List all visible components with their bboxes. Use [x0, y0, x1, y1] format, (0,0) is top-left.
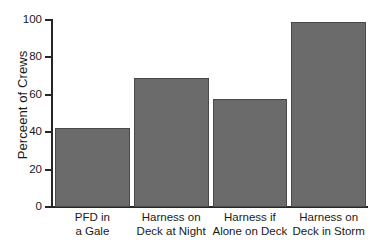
y-axis-tick — [45, 206, 52, 208]
y-axis-tick-label: 60 — [12, 89, 42, 100]
bar — [55, 128, 130, 207]
bar — [134, 78, 209, 207]
plot-area — [53, 20, 368, 207]
x-axis-tick-label-line: Deck in Storm — [269, 225, 380, 239]
y-axis-tick-label: 100 — [12, 14, 42, 25]
y-axis-tick — [45, 94, 52, 96]
bar — [213, 99, 288, 207]
y-axis-tick — [45, 19, 52, 21]
x-axis-tick-label: Harness onDeck in Storm — [269, 211, 380, 238]
x-axis-tick-label-line: Harness on — [269, 211, 380, 225]
y-axis-tick — [45, 169, 52, 171]
y-axis-tick — [45, 131, 52, 133]
y-axis-tick-label: 80 — [12, 51, 42, 62]
y-axis-tick-label: 40 — [12, 126, 42, 137]
y-axis-title: Perceent of Crews — [14, 5, 32, 205]
y-axis-tick — [45, 56, 52, 58]
bar — [291, 22, 366, 207]
y-axis-tick-label: 20 — [12, 164, 42, 175]
bar-chart: Perceent of Crews 020406080100 PFD ina G… — [0, 0, 380, 249]
